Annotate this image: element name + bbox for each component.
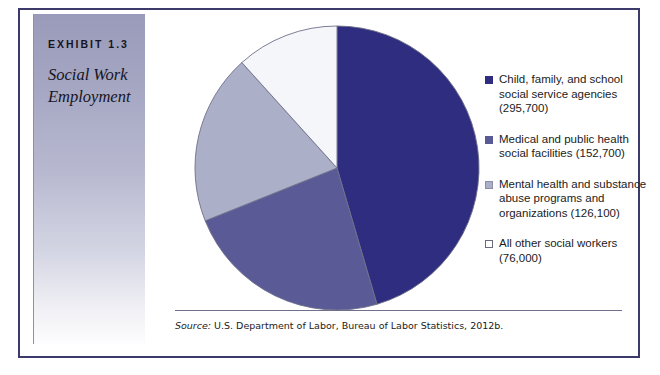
source-divider <box>175 310 622 311</box>
legend-label: Medical and public health social facilit… <box>499 132 655 161</box>
legend-item: Child, family, and school social service… <box>485 72 655 116</box>
source-label: Source: <box>175 320 211 331</box>
source-note: Source: U.S. Department of Labor, Bureau… <box>175 320 626 331</box>
legend-label: All other social workers (76,000) <box>499 236 655 265</box>
legend-swatch-icon <box>485 76 493 84</box>
chart-legend: Child, family, and school social service… <box>485 72 655 281</box>
pie-slice-group <box>195 26 479 310</box>
legend-label: Mental health and substance abuse progra… <box>499 177 655 221</box>
legend-swatch-icon <box>485 136 493 144</box>
legend-swatch-icon <box>485 181 493 189</box>
exhibit-number: EXHIBIT 1.3 <box>48 38 129 50</box>
exhibit-title: Social Work Employment <box>48 64 144 108</box>
exhibit-frame: EXHIBIT 1.3 Social Work Employment Child… <box>18 8 640 358</box>
pie-chart <box>193 24 481 312</box>
legend-item: Mental health and substance abuse progra… <box>485 177 655 221</box>
legend-item: Medical and public health social facilit… <box>485 132 655 161</box>
pie-chart-svg <box>193 24 481 312</box>
exhibit-sidebar: EXHIBIT 1.3 Social Work Employment <box>33 14 145 344</box>
source-text: U.S. Department of Labor, Bureau of Labo… <box>211 320 503 331</box>
chart-area: Child, family, and school social service… <box>145 14 636 354</box>
legend-item: All other social workers (76,000) <box>485 236 655 265</box>
legend-label: Child, family, and school social service… <box>499 72 655 116</box>
legend-swatch-icon <box>485 240 493 248</box>
